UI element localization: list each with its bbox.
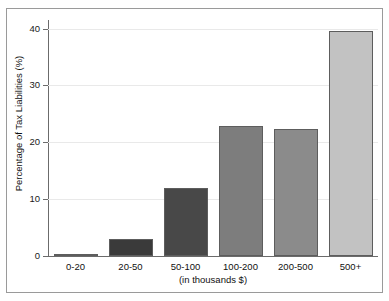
- y-tick-label: 0: [16, 251, 40, 261]
- bar-slot: [219, 20, 263, 256]
- y-tick-label-wrap: 30: [12, 80, 40, 90]
- bar[interactable]: [329, 31, 373, 256]
- bar[interactable]: [164, 188, 208, 256]
- y-tick-label-wrap: 10: [12, 194, 40, 204]
- x-tick-label: 100-200: [213, 262, 268, 272]
- x-tick-label: 500+: [323, 262, 378, 272]
- y-tick-label-wrap: 0: [12, 251, 40, 261]
- x-tick-label: 0-20: [48, 262, 103, 272]
- x-tick-label: 50-100: [158, 262, 213, 272]
- bar[interactable]: [54, 254, 98, 256]
- y-tick-label-wrap: 40: [12, 24, 40, 34]
- y-tick-label: 20: [16, 137, 40, 147]
- x-tick-label: 20-50: [103, 262, 158, 272]
- y-tick-label: 10: [16, 194, 40, 204]
- y-tick-label-wrap: 20: [12, 137, 40, 147]
- bar-slot: [54, 20, 98, 256]
- bar-slot: [274, 20, 318, 256]
- bar-slot: [109, 20, 153, 256]
- bar-slot: [164, 20, 208, 256]
- bar[interactable]: [274, 129, 318, 256]
- y-tick-label: 40: [16, 24, 40, 34]
- bar[interactable]: [109, 239, 153, 256]
- y-tick-label: 30: [16, 80, 40, 90]
- bar-slot: [329, 20, 373, 256]
- bar-chart-figure: Percentage of Tax Liabilities (%) 010203…: [0, 0, 389, 301]
- x-axis-title: (in thousands $): [48, 274, 378, 285]
- x-tick-label: 200-500: [268, 262, 323, 272]
- x-axis-line: [48, 256, 378, 257]
- bar[interactable]: [219, 126, 263, 256]
- plot-area: [48, 20, 378, 256]
